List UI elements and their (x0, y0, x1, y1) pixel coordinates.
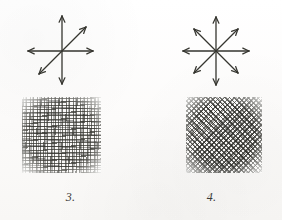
figure-caption-3: 3. (0, 190, 159, 205)
figure-4: 4. (141, 0, 282, 220)
texture-edge-fade (22, 97, 101, 173)
figure-page: 3. (0, 0, 282, 220)
figure-3: 3. (0, 0, 141, 220)
orthogonal-woven-texture-swatch (22, 97, 101, 173)
six-direction-arrow-diagram (0, 4, 141, 92)
texture-edge-fade (186, 97, 262, 173)
diagonal-crosshatch-texture-swatch (186, 97, 262, 173)
eight-direction-arrow-diagram (141, 4, 282, 92)
figure-caption-4: 4. (141, 190, 282, 205)
